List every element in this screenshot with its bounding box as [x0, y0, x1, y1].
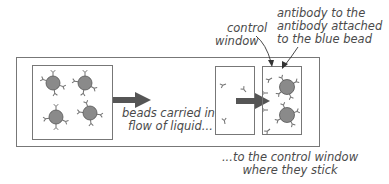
sample-box — [33, 66, 113, 140]
bound-bead-2 — [275, 102, 300, 127]
label-control-window: control window — [215, 22, 267, 48]
label-line: window — [215, 35, 267, 48]
label-antibody-desc: antibody to the antibody attached to the… — [277, 7, 382, 46]
flow-arrow-2 — [236, 93, 270, 109]
label-result: ...to the control window where they stic… — [210, 151, 370, 177]
bead-4 — [77, 100, 103, 126]
bound-bead-1 — [276, 75, 299, 100]
label-beads-flow: beads carried in flow of liquid... — [122, 107, 215, 133]
bead-1 — [40, 70, 66, 96]
bead-3 — [43, 104, 69, 130]
label-line: where they stick — [210, 164, 370, 177]
bead-2 — [72, 70, 97, 96]
label-line: to the blue bead — [277, 33, 382, 46]
outer-frame — [17, 58, 320, 147]
label-line: flow of liquid... — [122, 120, 215, 133]
